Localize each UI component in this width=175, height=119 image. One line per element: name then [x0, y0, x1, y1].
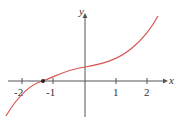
- x-axis-arrow-icon: [163, 79, 168, 84]
- x-tick-label: 2: [144, 86, 150, 98]
- chart: -2 -1 1 2 x y: [0, 0, 175, 119]
- x-tick-label: 1: [113, 86, 119, 98]
- curve-line: [6, 16, 158, 116]
- x-tick-label: -2: [14, 86, 23, 98]
- plot-area: -2 -1 1 2 x y: [0, 0, 175, 119]
- x-axis-label: x: [168, 74, 174, 86]
- root-point: [41, 79, 45, 83]
- x-tick-label: -1: [46, 86, 55, 98]
- y-axis-label: y: [78, 5, 84, 17]
